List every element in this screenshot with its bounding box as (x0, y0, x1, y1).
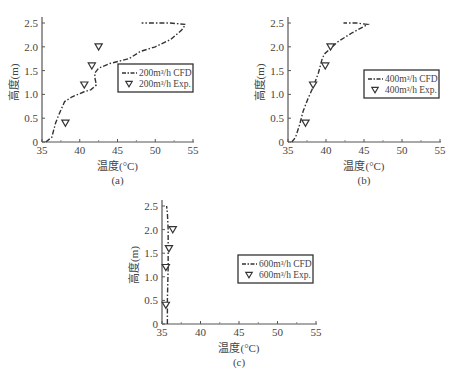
panel-label: (c) (233, 356, 246, 369)
y-tick-label: 2.5 (144, 200, 158, 212)
y-tick-label: 0 (33, 136, 39, 148)
chart-plot-c: 354045505500.51.01.52.02.5温度(°C)高度(m)(c)… (127, 200, 322, 369)
exp-marker-triangle (62, 120, 69, 126)
chart-plot-a: 354045505500.51.01.52.02.5温度(°C)高度(m)(a)… (7, 17, 199, 187)
x-tick-label: 50 (150, 144, 162, 156)
y-tick-label: 0.5 (270, 112, 284, 124)
x-axis-label: 温度(°C) (218, 341, 259, 355)
figure-canvas: 354045505500.51.01.52.02.5温度(°C)高度(m)(a)… (0, 0, 459, 377)
y-tick-label: 1.0 (144, 271, 158, 283)
x-tick-label: 35 (157, 326, 169, 338)
x-tick-label: 40 (195, 326, 207, 338)
y-tick-label: 1.0 (270, 88, 284, 100)
legend-exp-label: 400m³/h Exp. (385, 85, 437, 95)
x-tick-label: 35 (37, 144, 49, 156)
x-tick-label: 35 (283, 144, 295, 156)
cfd-line (292, 23, 368, 142)
y-axis-label: 高度(m) (253, 63, 267, 101)
x-axis-label: 温度(°C) (343, 159, 384, 173)
x-tick-label: 55 (188, 144, 200, 156)
x-tick-label: 55 (435, 144, 447, 156)
y-tick-label: 0.5 (144, 294, 158, 306)
y-tick-label: 0 (279, 136, 285, 148)
exp-marker-triangle (162, 302, 169, 308)
chart-plot-b: 354045505500.51.01.52.02.5温度(°C)高度(m)(b)… (253, 17, 446, 187)
exp-marker-triangle (169, 227, 176, 233)
x-tick-label: 40 (321, 144, 333, 156)
y-tick-label: 0 (153, 318, 159, 330)
exp-marker-triangle (95, 44, 102, 50)
panel-label: (a) (111, 174, 124, 187)
x-tick-label: 50 (272, 326, 284, 338)
exp-marker-triangle (302, 120, 309, 126)
x-tick-label: 50 (397, 144, 409, 156)
exp-marker-triangle (165, 246, 172, 252)
y-tick-label: 1.5 (24, 65, 38, 77)
y-tick-label: 2.0 (270, 41, 284, 53)
y-tick-label: 0.5 (24, 112, 38, 124)
y-tick-label: 2.5 (270, 17, 284, 29)
y-tick-label: 1.5 (270, 65, 284, 77)
legend-cfd-label: 200m³/h CFD (139, 68, 192, 78)
legend: 600m³/h CFD600m³/h Exp. (238, 255, 313, 283)
legend-exp-label: 600m³/h Exp. (259, 270, 311, 280)
legend-cfd-label: 400m³/h CFD (385, 74, 438, 84)
exp-marker-triangle (322, 63, 329, 69)
x-axis-label: 温度(°C) (97, 159, 138, 173)
x-tick-label: 45 (359, 144, 371, 156)
legend-exp-label: 200m³/h Exp. (139, 79, 191, 89)
legend: 400m³/h CFD400m³/h Exp. (364, 70, 439, 98)
x-tick-label: 55 (311, 326, 323, 338)
y-tick-label: 2.5 (24, 17, 38, 29)
y-axis-label: 高度(m) (7, 63, 21, 101)
exp-marker-triangle (81, 82, 88, 88)
exp-marker-triangle (88, 63, 95, 69)
x-tick-label: 45 (234, 326, 246, 338)
y-tick-label: 1.0 (24, 88, 38, 100)
x-tick-label: 40 (74, 144, 86, 156)
legend: 200m³/h CFD200m³/h Exp. (118, 64, 193, 92)
panel-label: (b) (358, 174, 371, 187)
exp-marker-triangle (309, 82, 316, 88)
y-tick-label: 2.0 (144, 224, 158, 236)
y-tick-label: 1.5 (144, 247, 158, 259)
x-tick-label: 45 (112, 144, 124, 156)
y-axis-label: 高度(m) (127, 246, 141, 284)
legend-cfd-label: 600m³/h CFD (259, 259, 312, 269)
y-tick-label: 2.0 (24, 41, 38, 53)
